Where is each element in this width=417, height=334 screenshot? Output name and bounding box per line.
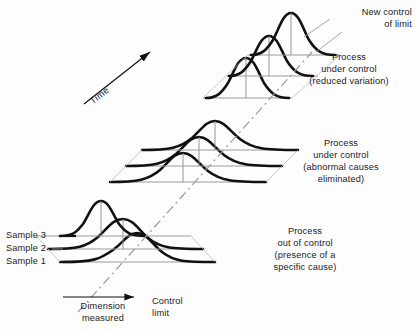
annotation-out-of-control-line1: Process: [242, 226, 368, 238]
annotation-out-of-control-line2: out of control: [242, 238, 368, 250]
dimension-measured-label-line2: measured: [60, 313, 146, 325]
annotation-abnormal-causes-line1: Process: [275, 138, 407, 150]
annotation-abnormal-causes-line2: under control: [275, 150, 407, 162]
distribution-curve-group1-sample3: [60, 201, 145, 236]
curve-group2-sample1: [110, 153, 266, 182]
annotation-abnormal-causes-line3: (abnormal causes: [275, 162, 407, 174]
distribution-curve-group2-sample2: [126, 137, 282, 166]
annotation-new-control-limit-line2: of limit: [268, 19, 412, 31]
dimension-measured-label-line1: Dimension: [60, 301, 146, 313]
sample-1-label: Sample 1: [6, 256, 46, 268]
control-limit-label-line2: limit: [152, 308, 169, 320]
annotation-new-control-limit-line1: New control: [268, 7, 412, 19]
annotation-reduced-variation-line1: Process: [284, 52, 414, 64]
group-out-of-control: [36, 201, 215, 262]
sample-2-label: Sample 2: [6, 243, 46, 255]
annotation-reduced-variation-line3: (reduced variation): [284, 76, 414, 88]
annotation-reduced-variation-line2: under control: [284, 64, 414, 76]
annotation-abnormal-causes-line4: eliminated): [275, 174, 407, 186]
group-abnormal-causes-eliminated: [110, 121, 298, 182]
annotation-out-of-control-line4: specific cause): [242, 262, 368, 274]
spc-diagram-canvas: Sample 3 Sample 2 Sample 1 Time Dimensio…: [0, 0, 417, 334]
distribution-curve-group2-sample1: [110, 153, 266, 182]
leader-line-new-control-limit-lower: [316, 32, 342, 52]
annotation-out-of-control-line3: (presence of a: [242, 250, 368, 262]
sample-3-label: Sample 3: [6, 230, 46, 242]
control-limit-label-line1: Control: [152, 296, 183, 308]
curve-group1-sample3: [36, 201, 191, 236]
curve-group2-sample2: [126, 137, 282, 166]
